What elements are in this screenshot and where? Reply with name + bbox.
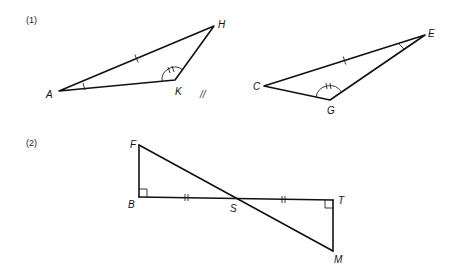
problem-2-label: (2): [26, 138, 37, 148]
vertex-label-S: S: [230, 203, 237, 214]
vertex-label-E: E: [428, 28, 435, 39]
vertex-label-H: H: [218, 19, 226, 30]
triangle-CEG-outline: [264, 35, 425, 100]
vertex-label-M: M: [334, 254, 343, 265]
vertex-label-F: F: [130, 139, 137, 150]
vertex-label-G: G: [327, 105, 335, 116]
triangle-CEG: C E G: [253, 28, 435, 116]
separator-mark: //: [199, 89, 207, 100]
geometry-diagram: (1) (2) A H K //: [0, 0, 449, 280]
vertex-label-A: A: [45, 89, 53, 100]
right-angle-T-icon: [325, 200, 333, 208]
angle-E-tick: [399, 44, 404, 49]
vertex-label-K: K: [175, 86, 183, 97]
figure-FBSTM: F B S T M: [128, 139, 345, 265]
vertex-label-B: B: [128, 199, 135, 210]
vertex-label-C: C: [253, 81, 261, 92]
diagram-svg: (1) (2) A H K //: [0, 0, 449, 280]
triangle-AHK: A H K: [45, 19, 226, 100]
problem-1-label: (1): [26, 15, 37, 25]
angle-G-tick-1: [326, 83, 327, 89]
right-angle-B-icon: [139, 189, 147, 197]
vertex-label-T: T: [338, 195, 345, 206]
angle-G-tick-2: [330, 83, 331, 89]
